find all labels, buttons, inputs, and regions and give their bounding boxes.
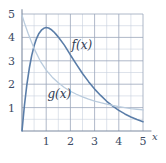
y-tick-label: 3 [8, 55, 15, 68]
x-tick-label: 1 [43, 135, 50, 148]
curve-annotation-gx: g(x) [47, 87, 71, 101]
x-tick-label: 3 [91, 135, 98, 148]
figure-container: 1234512345 f(x)g(x) x [0, 0, 166, 163]
curve-annotation-fx: f(x) [71, 38, 93, 52]
annotation-group: f(x)g(x) [47, 38, 92, 101]
y-tick-label: 5 [8, 8, 15, 21]
y-tick-label: 4 [8, 31, 15, 44]
y-tick-label: 2 [8, 78, 15, 91]
y-tick-label: 1 [8, 102, 15, 115]
x-tick-label: 5 [140, 135, 147, 148]
function-plot: 1234512345 f(x)g(x) x [0, 0, 166, 163]
axis-lines [22, 9, 151, 131]
x-tick-label: 2 [67, 135, 74, 148]
x-tick-label: 4 [115, 135, 122, 148]
x-axis-label: x [152, 131, 158, 142]
tick-label-group: 1234512345 [8, 8, 147, 148]
